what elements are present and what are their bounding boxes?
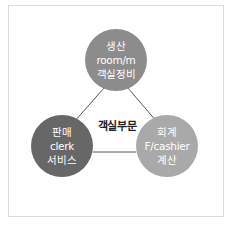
node-production-role: room/m bbox=[96, 53, 135, 67]
node-production-desc: 객실정비 bbox=[97, 67, 136, 81]
center-label: 객실부문 bbox=[86, 117, 148, 133]
node-accounting-title: 회계 bbox=[157, 125, 176, 139]
node-accounting-desc: 계산 bbox=[157, 153, 176, 167]
node-sales-title: 판매 bbox=[52, 125, 71, 139]
node-sales-role: clerk bbox=[50, 139, 74, 153]
node-accounting-role: F/cashier bbox=[145, 139, 190, 153]
node-production: 생산 room/m 객실정비 bbox=[85, 29, 147, 91]
node-sales: 판매 clerk 서비스 bbox=[31, 115, 93, 177]
node-production-title: 생산 bbox=[106, 39, 125, 53]
node-sales-desc: 서비스 bbox=[47, 153, 76, 167]
